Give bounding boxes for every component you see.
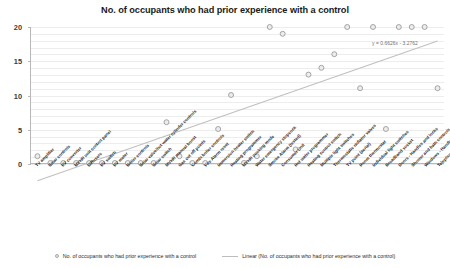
legend-label-scatter: No. of occupants who had prior experienc…: [63, 253, 196, 259]
chart-legend: No. of occupants who had prior experienc…: [0, 253, 450, 259]
scatter-point: [280, 31, 285, 36]
legend-entry-trendline[interactable]: Linear (No. of occupants who had prior e…: [222, 253, 395, 259]
y-axis-tick-label: 20: [0, 23, 22, 32]
chart-container: No. of occupants who had prior experienc…: [0, 0, 450, 268]
legend-label-trendline: Linear (No. of occupants who had prior e…: [242, 253, 395, 259]
scatter-point: [435, 86, 440, 91]
scatter-point: [267, 25, 272, 30]
scatter-point: [229, 93, 234, 98]
scatter-point: [371, 25, 376, 30]
scatter-point: [216, 127, 221, 132]
scatter-point: [383, 127, 388, 132]
scatter-point: [422, 25, 427, 30]
x-axis-labels: TV amplifierSolar controlsPV converterMV…: [30, 164, 444, 236]
scatter-point: [396, 25, 401, 30]
y-axis-tick-label: 10: [0, 91, 22, 100]
legend-entry-scatter[interactable]: No. of occupants who had prior experienc…: [55, 253, 196, 259]
scatter-point: [319, 65, 324, 70]
y-axis-tick-label: 5: [0, 125, 22, 134]
scatter-point: [332, 52, 337, 57]
scatter-point: [409, 25, 414, 30]
scatter-marker-icon: [55, 254, 59, 258]
line-marker-icon: [222, 256, 238, 257]
scatter-point: [306, 72, 311, 77]
scatter-point: [345, 25, 350, 30]
trendline-equation-label: y = 0.6626x - 3.2762: [372, 41, 418, 46]
y-axis-tick-label: 0: [0, 160, 22, 169]
y-axis-tick-label: 15: [0, 57, 22, 66]
chart-title: No. of occupants who had prior experienc…: [0, 5, 450, 15]
scatter-point: [164, 120, 169, 125]
scatter-point: [358, 86, 363, 91]
